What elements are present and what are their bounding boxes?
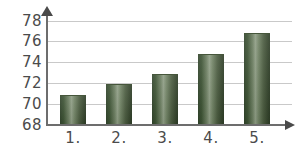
bar-5[interactable] <box>244 33 270 126</box>
bar-2[interactable] <box>106 84 132 126</box>
bar-4[interactable] <box>198 54 224 126</box>
bar-3[interactable] <box>152 74 178 126</box>
y-tick-label-68: 68 <box>8 118 42 133</box>
y-tick-label-70: 70 <box>8 97 42 112</box>
y-tick-label-76: 76 <box>8 34 42 49</box>
gridline-78 <box>48 21 292 22</box>
y-tick-label-74: 74 <box>8 55 42 70</box>
y-axis-line <box>46 14 48 126</box>
x-tick-label-5: 5. <box>237 131 277 146</box>
y-tick-label-72: 72 <box>8 76 42 91</box>
bar-1[interactable] <box>60 95 86 126</box>
x-tick-label-1: 1. <box>53 131 93 146</box>
x-axis-arrow-icon <box>285 120 295 130</box>
x-tick-label-4: 4. <box>191 131 231 146</box>
y-axis-arrow-icon <box>41 6 53 16</box>
bar-chart: 78 76 74 72 70 68 1. 2. 3. 4. 5. <box>0 0 306 158</box>
x-tick-label-2: 2. <box>99 131 139 146</box>
y-tick-label-78: 78 <box>8 14 42 29</box>
x-axis-line <box>46 124 286 126</box>
x-tick-label-3: 3. <box>145 131 185 146</box>
